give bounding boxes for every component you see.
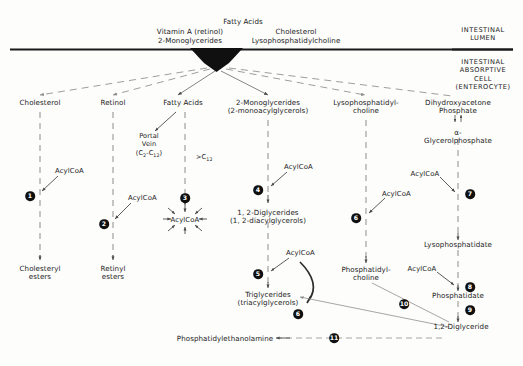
node-fatty-acids: Fatty Acids [163,99,202,107]
node-1-2-diglyceride-right: 1,2-Diglyceride [433,323,488,331]
step-badge-7: 7 [465,189,475,199]
step-badge-2: 2 [99,219,109,229]
node-retinyl-esters: Retinyl esters [101,265,126,282]
reagent-acylcoa-cholesterol: AcylCoA [55,167,84,175]
reagent-acylcoa-lysophosphatidate: AcylCoA [408,265,437,273]
node-phosphatidate: Phosphatidate [432,292,484,300]
step-badge-6-converge: 6 [293,309,303,319]
node-1-2-diglycerides: 1, 2-Diglycerides (1, 2-diacylglycerols) [230,209,306,226]
node-cholesteryl-esters: Cholesteryl esters [20,265,61,282]
node-acylcoa-pool: AcylCoA [171,216,200,224]
step-badge-4: 4 [253,185,263,195]
lumen-substrate-monoglycerides: 2-Monoglycerides [158,37,222,45]
compartment-label-lumen: INTESTINAL LUMEN [461,26,504,43]
portal-vein-chain-length: (C2-C12) [136,150,162,160]
reagent-acylcoa-retinol: AcylCoA [128,194,157,202]
node-alpha-glycerolphosphate: α-Glycerolphosphate [424,129,492,146]
compartment-label-enterocyte: INTESTINAL ABSORPTIVE CELL (ENTEROCYTE) [456,58,511,92]
node-2-monoglycerides: 2-Monoglycerides (2-monoacylglycerols) [228,99,309,116]
pathway-lines [0,0,523,366]
node-phosphatidylethanolamine: Phosphatidylethanolamine [177,335,273,343]
reagent-acylcoa-monoglycerides: AcylCoA [284,163,313,171]
step-badge-11: 11 [329,333,339,343]
reagent-acylcoa-diglycerides: AcylCoA [286,249,315,257]
reagent-acylcoa-glycerolphosphate: AcylCoA [411,170,440,178]
reagent-acylcoa-lysophosphatidylcholine: AcylCoA [382,190,411,198]
node-lysophosphatidylcholine: Lysophosphatidyl- choline [333,99,398,116]
node-dihydroxyacetone-phosphate: Dihydroxyacetone Phosphate [425,99,491,116]
node-portal-vein: Portal Vein [139,133,158,149]
long-chain-fatty-acid-label: >C12 [196,154,213,164]
node-cholesterol: Cholesterol [20,99,61,107]
step-badge-3: 3 [180,193,190,203]
figure-canvas: Vitamin A (retinol) 2-Monoglycerides Fat… [0,0,523,366]
step-badge-5: 5 [253,269,263,279]
step-badge-9: 9 [465,305,475,315]
node-retinol: Retinol [100,99,125,107]
step-badge-10: 10 [399,299,409,309]
step-badge-1: 1 [25,191,35,201]
lumen-substrate-fatty-acids: Fatty Acids [223,18,262,26]
node-phosphatidylcholine: Phosphatidyl- choline [341,266,390,283]
lumen-substrate-lysophosphatidylcholine: Lysophosphatidylcholine [252,37,341,45]
step-badge-6: 6 [351,213,361,223]
node-triglycerides: Triglycerides (triacylglycerols) [238,291,299,308]
node-lysophosphatidate: Lysophosphatidate [424,241,492,249]
